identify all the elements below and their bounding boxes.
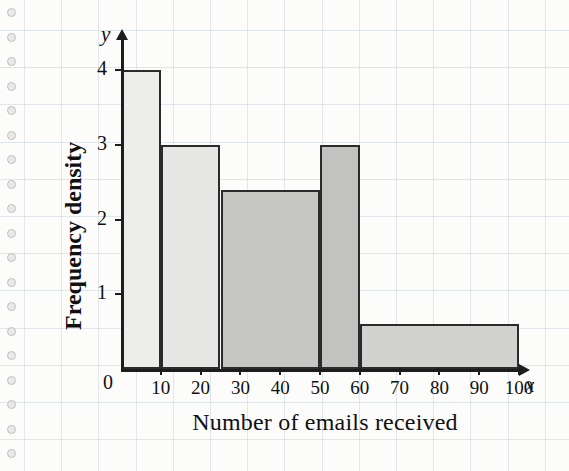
x-axis-tick: [478, 368, 480, 375]
x-axis-tick: [279, 368, 281, 375]
x-axis-tick-label: 10: [141, 377, 181, 399]
x-axis-tick-label: 90: [459, 377, 499, 399]
y-axis-tick: [115, 293, 122, 295]
x-axis-tick-label: 50: [300, 377, 340, 399]
x-axis-tick: [438, 368, 440, 375]
histogram-bar: [320, 145, 360, 369]
x-axis-tick: [160, 368, 162, 375]
x-axis-tick-label: 70: [380, 377, 420, 399]
x-axis-tick-label: 100: [499, 377, 539, 399]
origin-label: 0: [103, 371, 113, 394]
x-axis-tick-label: 60: [340, 377, 380, 399]
y-axis-tick: [115, 219, 122, 221]
histogram-bar: [121, 70, 161, 369]
y-axis-tick-label: 4: [77, 57, 107, 80]
x-axis-title: Number of emails received: [130, 409, 520, 436]
y-axis-variable-label: y: [101, 22, 110, 47]
x-axis-tick: [239, 368, 241, 375]
y-axis-tick: [115, 144, 122, 146]
x-axis-tick-label: 30: [220, 377, 260, 399]
x-axis-tick-label: 80: [419, 377, 459, 399]
x-axis-tick: [359, 368, 361, 375]
x-axis-tick-label: 20: [181, 377, 221, 399]
x-axis-tick: [399, 368, 401, 375]
x-axis-tick: [200, 368, 202, 375]
y-axis-title: Frequency density: [60, 142, 87, 330]
y-axis-line: [121, 40, 124, 372]
histogram-chart: y x 0 1234 102030405060708090100 Frequen…: [0, 0, 569, 471]
histogram-bar: [221, 190, 321, 369]
worksheet-page: y x 0 1234 102030405060708090100 Frequen…: [0, 0, 569, 471]
x-axis-tick: [319, 368, 321, 375]
y-axis-arrow-icon: [116, 29, 128, 40]
histogram-bar: [360, 324, 519, 369]
y-axis-tick: [115, 69, 122, 71]
x-axis-tick-label: 40: [260, 377, 300, 399]
histogram-bar: [161, 145, 221, 369]
x-axis-tick: [518, 368, 520, 375]
